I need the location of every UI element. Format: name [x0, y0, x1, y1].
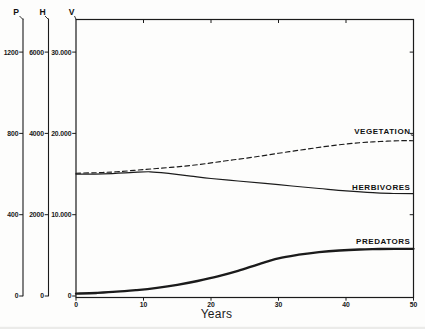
p-axis-title: P [13, 7, 19, 17]
x-axis-tick-label: 0 [74, 301, 78, 308]
chart-canvas: P 04008001200 H 0200040006000 V 010.0002… [0, 0, 425, 329]
h-axis-tick-label: 6000 [29, 49, 44, 56]
x-axis-tick-label: 40 [342, 301, 350, 308]
predators-label: PREDATORS [356, 237, 411, 246]
x-axis-tick-label: 10 [140, 301, 148, 308]
h-axis-title: H [39, 7, 45, 17]
p-axis-tick-label: 800 [7, 130, 18, 137]
v-axis-title: V [69, 7, 75, 17]
p-axis-tick-label: 1200 [4, 49, 19, 56]
x-axis-label: Years [201, 307, 233, 321]
p-axis-tick-label: 400 [7, 211, 18, 218]
plot-frame [76, 20, 414, 298]
h-axis-tick-label: 4000 [29, 130, 44, 137]
v-axis-tick-label: 20.000 [51, 130, 72, 137]
herbivores-label: HERBIVORES [352, 183, 411, 192]
plot-area: V 010.00020.00030.000 01020304050 VEGETA… [51, 7, 417, 321]
h-axis: H 0200040006000 [29, 7, 48, 299]
predators-curve [76, 249, 414, 294]
v-axis-tick-label: 0 [68, 292, 72, 299]
h-axis-ticks: 0200040006000 [29, 49, 48, 300]
x-axis-ticks: 01020304050 [74, 298, 417, 309]
x-axis-tick-label: 50 [410, 301, 418, 308]
h-axis-tick-label: 2000 [29, 211, 44, 218]
p-axis-ticks: 04008001200 [4, 49, 23, 300]
v-axis-tick-label: 30.000 [51, 49, 72, 56]
v-axis-tick-label: 10.000 [51, 211, 72, 218]
p-axis-tick-label: 0 [15, 292, 19, 299]
x-axis-tick-label: 30 [275, 301, 283, 308]
population-model-chart: P 04008001200 H 0200040006000 V 010.0002… [0, 0, 425, 329]
vegetation-curve [76, 141, 414, 174]
h-axis-tick-label: 0 [40, 292, 44, 299]
p-axis: P 04008001200 [4, 7, 23, 299]
v-axis-ticks: 010.00020.00030.000 [51, 49, 76, 300]
vegetation-label: VEGETATION [354, 127, 410, 136]
